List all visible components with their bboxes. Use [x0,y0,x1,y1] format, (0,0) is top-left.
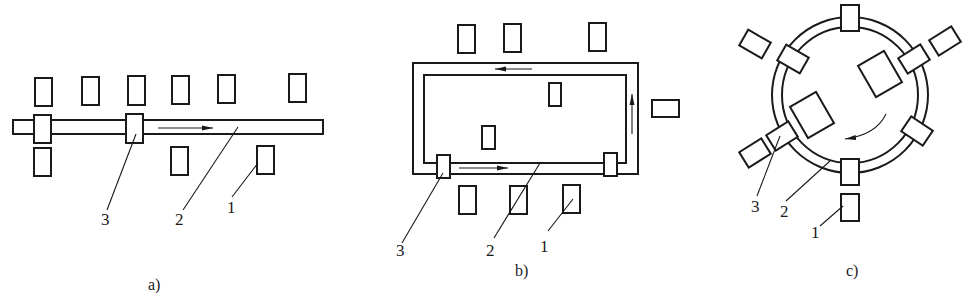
leader-3 [107,134,136,210]
machine [858,51,902,97]
leader-1 [820,206,843,226]
machine [35,78,52,106]
carrier [841,159,859,185]
panel-b: 3 2 1 b) [396,23,679,280]
machine [929,26,961,55]
caption-a: a) [148,276,160,294]
callout-3: 3 [751,197,760,216]
machine [739,30,771,59]
machine [739,138,771,167]
machine [652,100,679,117]
leader-1 [548,199,573,231]
track-inner [424,75,626,163]
machine [458,25,475,53]
machine [549,83,561,106]
track-a [13,120,323,134]
caption-c: c) [846,262,858,280]
callout-1: 1 [540,237,549,256]
carrier-3 [766,121,798,150]
caption-b: b) [515,262,528,280]
track-inner-ring [782,27,918,163]
leader-2 [786,161,830,201]
machine-1 [257,146,274,174]
track-outer-ring [772,17,928,173]
callout-2: 2 [780,202,789,221]
callout-3: 3 [396,241,405,260]
machine [482,126,495,149]
layout-diagrams: 3 2 1 a) 3 2 1 b) [0,0,972,306]
machine-1 [841,194,859,221]
machine [289,74,306,102]
machine [172,76,189,104]
machine [218,75,235,103]
machine [171,147,188,175]
carrier [901,116,933,145]
carrier [777,45,809,74]
panel-a: 3 2 1 a) [13,74,323,294]
carrier [604,153,617,176]
machine [82,77,99,105]
leader-3 [402,173,443,243]
callout-1: 1 [227,198,236,217]
machine [459,186,476,214]
carrier [841,5,859,31]
machine [128,76,145,105]
leader-1 [232,163,258,197]
machine [510,186,527,214]
machine [790,92,834,138]
carrier [898,44,930,73]
callout-3: 3 [101,210,110,229]
panel-c: 3 2 1 c) [739,5,961,280]
callout-1: 1 [811,223,820,242]
carrier-3 [437,155,450,178]
callout-2: 2 [486,241,495,260]
callout-2: 2 [175,210,184,229]
carrier [34,115,51,143]
machine [34,148,51,176]
arrow-clockwise-icon [845,114,886,139]
machine [589,23,606,51]
machine [504,24,521,52]
